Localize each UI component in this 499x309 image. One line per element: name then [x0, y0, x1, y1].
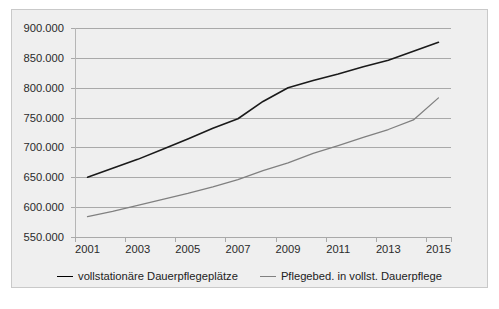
- series-plot: [75, 28, 451, 238]
- x-tick-mark-2003: [125, 238, 126, 242]
- y-tick-label-650000: 650.000: [0, 171, 64, 183]
- y-tick-label-700000: 700.000: [0, 141, 64, 153]
- legend-swatch-series-1: [57, 276, 73, 277]
- chart-page: 550.000600.000650.000700.000750.000800.0…: [0, 0, 499, 309]
- x-tick-mark-2009: [276, 238, 277, 242]
- y-tick-label-750000: 750.000: [0, 112, 64, 124]
- y-tick-label-800000: 800.000: [0, 82, 64, 94]
- x-tick-mark-end: [451, 238, 452, 242]
- x-tick-label-2009: 2009: [276, 243, 301, 255]
- legend-label-series-2: Pflegebed. in vollst. Dauerpflege: [281, 270, 442, 282]
- x-tick-label-2007: 2007: [225, 243, 250, 255]
- y-tick-label-550000: 550.000: [0, 231, 64, 243]
- series-line-2: [88, 98, 439, 217]
- y-tick-label-600000: 600.000: [0, 201, 64, 213]
- x-tick-label-2001: 2001: [75, 243, 100, 255]
- legend-label-series-1: vollstationäre Dauerpflegeplätze: [78, 270, 238, 282]
- x-tick-label-2013: 2013: [376, 243, 401, 255]
- x-tick-mark-2001: [75, 238, 76, 242]
- x-tick-label-2015: 2015: [426, 243, 451, 255]
- x-tick-label-2011: 2011: [326, 243, 350, 255]
- series-line-1: [88, 42, 439, 177]
- y-tick-label-900000: 900.000: [0, 22, 64, 34]
- x-tick-mark-2013: [376, 238, 377, 242]
- x-tick-mark-2007: [225, 238, 226, 242]
- x-tick-label-2005: 2005: [175, 243, 200, 255]
- legend-item-vollstationaere-dauerpflegeplaetze[interactable]: vollstationäre Dauerpflegeplätze: [57, 270, 238, 282]
- x-tick-mark-2011: [326, 238, 327, 242]
- chart-legend: vollstationäre Dauerpflegeplätze Pflegeb…: [0, 270, 499, 282]
- x-tick-mark-2005: [175, 238, 176, 242]
- legend-swatch-series-2: [260, 276, 276, 277]
- y-tick-label-850000: 850.000: [0, 52, 64, 64]
- legend-item-pflegebed-in-vollst-dauerpflege[interactable]: Pflegebed. in vollst. Dauerpflege: [260, 270, 442, 282]
- x-tick-label-2003: 2003: [125, 243, 150, 255]
- x-tick-mark-2015: [426, 238, 427, 242]
